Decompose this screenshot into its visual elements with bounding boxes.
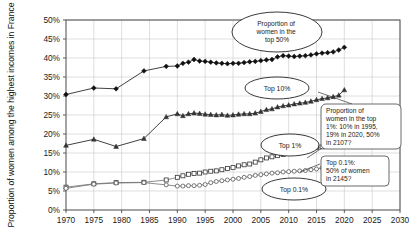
data-point bbox=[275, 54, 280, 59]
data-point bbox=[248, 175, 252, 179]
data-point bbox=[264, 156, 268, 160]
data-point bbox=[314, 51, 319, 56]
annotation-top-1-box: Proportion of women in the top 1%: 10% i… bbox=[321, 104, 401, 149]
data-point bbox=[203, 183, 207, 187]
data-point bbox=[142, 69, 147, 74]
data-point bbox=[175, 64, 180, 69]
data-point bbox=[225, 178, 229, 182]
x-tick-label: 2010 bbox=[279, 215, 298, 225]
data-point bbox=[225, 61, 230, 66]
data-point bbox=[236, 61, 241, 66]
data-point bbox=[186, 184, 190, 188]
y-tick-label: 25% bbox=[43, 110, 60, 120]
y-tick-label: 30% bbox=[43, 91, 60, 101]
data-point bbox=[214, 61, 219, 66]
x-tick-label: 2000 bbox=[224, 215, 243, 225]
data-point bbox=[92, 182, 96, 186]
data-point bbox=[186, 172, 190, 176]
data-point bbox=[197, 59, 202, 64]
data-point bbox=[287, 170, 291, 174]
data-point bbox=[264, 172, 268, 176]
data-point bbox=[281, 170, 285, 174]
data-point bbox=[253, 59, 258, 64]
x-tick-label: 1990 bbox=[168, 215, 187, 225]
data-point bbox=[237, 176, 241, 180]
data-point bbox=[231, 61, 236, 66]
y-tick-label: 5% bbox=[48, 186, 61, 196]
y-tick-label: 50% bbox=[43, 15, 60, 25]
data-point bbox=[114, 86, 119, 91]
data-point bbox=[320, 51, 325, 56]
data-point bbox=[164, 64, 169, 69]
data-point bbox=[242, 163, 246, 167]
data-point bbox=[298, 169, 302, 173]
y-tick-label: 35% bbox=[43, 72, 60, 82]
data-point bbox=[253, 173, 257, 177]
data-point bbox=[342, 45, 347, 50]
data-point bbox=[64, 186, 68, 190]
data-point bbox=[181, 174, 185, 178]
data-point bbox=[219, 61, 224, 66]
chart-svg: Proportion of women among the highest in… bbox=[0, 0, 416, 239]
y-tick-label: 15% bbox=[43, 148, 60, 158]
data-point bbox=[198, 183, 202, 187]
y-tick-label: 40% bbox=[43, 53, 60, 63]
data-point bbox=[220, 168, 224, 172]
annotation-top-50-oval: Proportion of women in the top 50% bbox=[232, 12, 322, 52]
data-point bbox=[181, 184, 185, 188]
data-point bbox=[331, 50, 336, 55]
x-tick-label: 1995 bbox=[196, 215, 215, 225]
data-point bbox=[175, 175, 179, 179]
x-tick-label: 2015 bbox=[307, 215, 326, 225]
data-point bbox=[203, 59, 208, 64]
data-point bbox=[208, 60, 213, 65]
data-point bbox=[281, 53, 286, 58]
data-point bbox=[253, 160, 257, 164]
data-point bbox=[242, 175, 246, 179]
x-tick-label: 2030 bbox=[391, 215, 410, 225]
data-point bbox=[198, 171, 202, 175]
x-tick-label: 2020 bbox=[335, 215, 354, 225]
y-tick-label: 45% bbox=[43, 34, 60, 44]
data-point bbox=[242, 60, 247, 65]
annotation-top-1-oval: Top 1% bbox=[261, 134, 319, 156]
data-point bbox=[220, 179, 224, 183]
data-point bbox=[315, 167, 319, 171]
data-point bbox=[192, 172, 196, 176]
data-point bbox=[181, 61, 186, 66]
data-point bbox=[203, 170, 207, 174]
chart-figure: Proportion of women among the highest in… bbox=[0, 0, 416, 239]
data-point bbox=[142, 181, 146, 185]
data-point bbox=[237, 164, 241, 168]
data-point bbox=[175, 111, 180, 115]
x-tick-label: 2025 bbox=[363, 215, 382, 225]
y-axis-title: Proportion of women among the highest in… bbox=[6, 2, 16, 227]
y-tick-label: 0% bbox=[48, 205, 61, 215]
y-tick-label: 20% bbox=[43, 129, 60, 139]
data-point bbox=[91, 137, 96, 141]
svg-text:Top 10%: Top 10% bbox=[264, 85, 290, 93]
data-point bbox=[209, 169, 213, 173]
data-point bbox=[192, 184, 196, 188]
data-point bbox=[225, 167, 229, 171]
data-point bbox=[214, 169, 218, 173]
data-point bbox=[336, 48, 341, 53]
data-point bbox=[247, 59, 252, 64]
data-point bbox=[214, 180, 218, 184]
x-tick-label: 2005 bbox=[252, 215, 271, 225]
data-point bbox=[276, 171, 280, 175]
data-point bbox=[292, 169, 296, 173]
data-point bbox=[114, 181, 118, 185]
annotation-top-0-1-box: Top 0.1%: 50% of women in 2145? bbox=[321, 156, 389, 186]
data-point bbox=[325, 50, 330, 55]
svg-text:Top 0.1%: Top 0.1% bbox=[280, 186, 308, 194]
data-point bbox=[175, 184, 179, 188]
data-point bbox=[258, 58, 263, 63]
data-point bbox=[303, 53, 308, 58]
data-point bbox=[270, 155, 274, 159]
annotation-top-0-1-oval: Top 0.1% bbox=[262, 178, 326, 200]
data-point bbox=[91, 86, 96, 91]
data-point bbox=[231, 165, 235, 169]
data-point bbox=[186, 60, 191, 65]
x-tick-label: 1975 bbox=[85, 215, 104, 225]
